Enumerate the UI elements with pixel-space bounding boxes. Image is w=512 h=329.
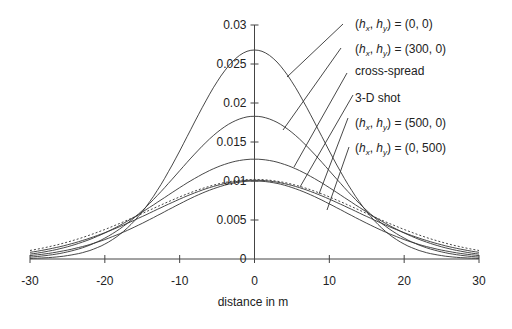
x-tick-label: 10: [323, 274, 337, 288]
x-tick-label: -20: [96, 274, 114, 288]
x-tick-label: -30: [21, 274, 39, 288]
x-tick-label: 30: [472, 274, 486, 288]
legend-label-4: (hx, hy) = (500, 0): [355, 116, 446, 132]
chart: -30-20-10010203000.0050.010.0150.020.025…: [0, 0, 512, 329]
legend-label-1: (hx, hy) = (300, 0): [355, 42, 446, 58]
y-tick-label: 0.015: [216, 135, 246, 149]
legend-label-0: (hx, hy) = (0, 0): [355, 17, 433, 33]
y-tick-label: 0: [240, 252, 247, 266]
legend-label-2: cross-spread: [355, 64, 424, 78]
x-tick-label: -10: [171, 274, 189, 288]
y-tick-label: 0.005: [216, 213, 246, 227]
leader-line-5: [327, 147, 349, 210]
y-tick-label: 0.025: [216, 57, 246, 71]
legend: (hx, hy) = (0, 0)(hx, hy) = (300, 0)cros…: [355, 17, 446, 157]
y-tick-label: 0.02: [223, 96, 247, 110]
leader-line-0: [287, 24, 343, 77]
legend-leader-lines: [283, 24, 353, 210]
y-tick-label: 0.01: [223, 174, 247, 188]
x-axis-title: distance in m: [218, 295, 289, 309]
x-tick-label: 20: [397, 274, 411, 288]
legend-label-5: (hx, hy) = (0, 500): [355, 141, 446, 157]
y-tick-label: 0.03: [223, 18, 247, 32]
legend-label-3: 3-D shot: [355, 91, 401, 105]
x-tick-label: 0: [251, 274, 258, 288]
